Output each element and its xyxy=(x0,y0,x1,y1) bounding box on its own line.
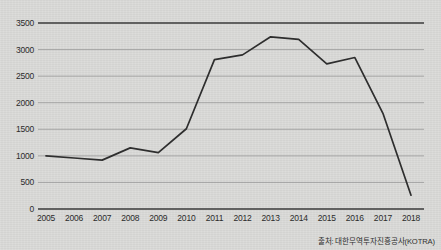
x-tick-2013: 2013 xyxy=(262,213,281,223)
x-tick-2011: 2011 xyxy=(206,213,224,223)
data-series-line xyxy=(46,37,411,195)
data-series-group xyxy=(46,37,411,195)
x-tick-2016: 2016 xyxy=(346,213,365,223)
y-axis-tick-labels: 0500100015002000250030003500 xyxy=(16,18,35,214)
x-tick-2005: 2005 xyxy=(37,213,56,223)
y-tick-3000: 3000 xyxy=(16,45,35,55)
x-tick-2015: 2015 xyxy=(318,213,337,223)
y-tick-2500: 2500 xyxy=(16,71,35,81)
x-tick-2008: 2008 xyxy=(121,213,140,223)
x-tick-2017: 2017 xyxy=(374,213,393,223)
x-tick-2006: 2006 xyxy=(65,213,84,223)
source-note: 출처: 대한무역투자진흥공사(KOTRA) xyxy=(318,235,435,246)
y-tick-2000: 2000 xyxy=(16,98,35,108)
y-tick-3500: 3500 xyxy=(16,18,35,28)
line-chart: 0500100015002000250030003500 20052006200… xyxy=(0,0,441,250)
y-tick-1500: 1500 xyxy=(16,124,35,134)
chart-page: 0500100015002000250030003500 20052006200… xyxy=(0,0,441,250)
x-tick-2012: 2012 xyxy=(233,213,252,223)
x-tick-2018: 2018 xyxy=(402,213,421,223)
x-tick-2009: 2009 xyxy=(149,213,168,223)
x-tick-2010: 2010 xyxy=(177,213,196,223)
gridlines-group xyxy=(38,23,424,209)
x-tick-2007: 2007 xyxy=(93,213,112,223)
x-axis-tick-labels: 2005200620072008200920102011201220132014… xyxy=(37,213,421,223)
chart-plot-svg: 0500100015002000250030003500 20052006200… xyxy=(0,0,441,250)
y-tick-0: 0 xyxy=(29,204,34,214)
y-tick-1000: 1000 xyxy=(16,151,35,161)
y-tick-500: 500 xyxy=(20,177,34,187)
x-tick-2014: 2014 xyxy=(290,213,309,223)
